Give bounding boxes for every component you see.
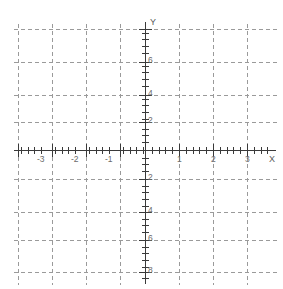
x-tick-label-neg2: -2 [71,155,79,164]
x-tick-label-neg1: -1 [105,155,113,164]
axis-lines [14,22,276,284]
grid-canvas [0,0,283,289]
y-tick-label-6: 6 [148,56,153,65]
y-tick-label-2: 2 [148,116,153,125]
x-tick-label-1: 1 [177,155,182,164]
x-tick-label-neg3: -3 [37,155,45,164]
coordinate-plane: -3 -2 -1 1 2 3 6 4 2 2 4 6 8 Y X [0,0,283,289]
x-tick-label-2: 2 [211,155,216,164]
x-tick-label-3: 3 [245,155,250,164]
y-tick-label-neg2: 2 [148,173,153,182]
y-tick-label-4: 4 [148,89,153,98]
y-tick-label-neg8: 8 [148,266,153,275]
y-tick-label-neg6: 6 [148,234,153,243]
y-axis-label: Y [150,18,156,27]
y-tick-label-neg4: 4 [148,206,153,215]
x-axis-label: X [269,155,275,164]
